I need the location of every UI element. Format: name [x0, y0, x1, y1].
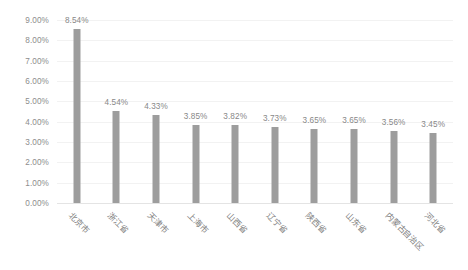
bar-slot: 8.54%	[57, 20, 97, 203]
bar-slot: 3.45%	[413, 20, 453, 203]
bar-value-label: 3.45%	[421, 120, 445, 129]
bar[interactable]	[390, 131, 397, 203]
y-axis: 9.00%8.00%7.00%6.00%5.00%4.00%3.00%2.00%…	[0, 20, 53, 203]
bar-value-label: 8.54%	[65, 16, 89, 25]
x-tick-slot: 上海市	[176, 203, 216, 270]
x-tick-label: 上海市	[185, 209, 211, 235]
bar-value-label: 3.85%	[184, 112, 208, 121]
bar-slot: 4.33%	[136, 20, 176, 203]
x-tick-slot: 内蒙古自治区	[374, 203, 414, 270]
bar-slot: 3.73%	[255, 20, 295, 203]
x-tick-label: 山西省	[225, 209, 251, 235]
x-tick-label: 河北省	[423, 209, 449, 235]
bar-value-label: 3.65%	[342, 116, 366, 125]
bar-slot: 3.85%	[176, 20, 216, 203]
bar-value-label: 3.82%	[223, 112, 247, 121]
bar-slot: 4.54%	[97, 20, 137, 203]
y-tick-label: 7.00%	[25, 56, 49, 65]
x-tick-slot: 山东省	[334, 203, 374, 270]
x-tick-label: 浙江省	[106, 209, 132, 235]
bar[interactable]	[152, 115, 159, 203]
bar-slot: 3.65%	[334, 20, 374, 203]
bar-value-label: 4.33%	[144, 102, 168, 111]
y-tick-label: 8.00%	[25, 36, 49, 45]
bar-chart: 9.00%8.00%7.00%6.00%5.00%4.00%3.00%2.00%…	[0, 0, 468, 270]
x-tick-label: 陕西省	[304, 209, 330, 235]
bar-slot: 3.65%	[295, 20, 335, 203]
bar[interactable]	[232, 125, 239, 203]
y-tick-label: 4.00%	[25, 117, 49, 126]
x-tick-slot: 山西省	[215, 203, 255, 270]
bar[interactable]	[430, 133, 437, 203]
y-tick-label: 9.00%	[25, 16, 49, 25]
bar-slot: 3.82%	[215, 20, 255, 203]
y-tick-label: 2.00%	[25, 158, 49, 167]
x-tick-label: 辽宁省	[264, 209, 290, 235]
bar[interactable]	[311, 129, 318, 203]
y-tick-label: 5.00%	[25, 97, 49, 106]
y-tick-label: 6.00%	[25, 77, 49, 86]
x-tick-label: 山东省	[343, 209, 369, 235]
x-tick-slot: 天津市	[136, 203, 176, 270]
x-tick-label: 天津市	[145, 209, 171, 235]
x-tick-slot: 辽宁省	[255, 203, 295, 270]
y-tick-label: 3.00%	[25, 138, 49, 147]
y-tick-label: 0.00%	[25, 199, 49, 208]
bar-value-label: 3.56%	[382, 118, 406, 127]
y-tick-label: 1.00%	[25, 178, 49, 187]
bars-layer: 8.54%4.54%4.33%3.85%3.82%3.73%3.65%3.65%…	[57, 20, 453, 203]
x-tick-slot: 河北省	[413, 203, 453, 270]
x-tick-slot: 陕西省	[295, 203, 335, 270]
bar[interactable]	[113, 111, 120, 203]
x-axis: 北京市浙江省天津市上海市山西省辽宁省陕西省山东省内蒙古自治区河北省	[57, 203, 453, 270]
bar[interactable]	[192, 125, 199, 203]
bar[interactable]	[350, 129, 357, 203]
x-tick-slot: 浙江省	[97, 203, 137, 270]
bar-value-label: 4.54%	[105, 98, 129, 107]
x-tick-slot: 北京市	[57, 203, 97, 270]
bar[interactable]	[73, 29, 80, 203]
x-tick-label: 北京市	[66, 209, 92, 235]
bar-value-label: 3.65%	[303, 116, 327, 125]
bar-slot: 3.56%	[374, 20, 414, 203]
bar[interactable]	[271, 127, 278, 203]
bar-value-label: 3.73%	[263, 114, 287, 123]
